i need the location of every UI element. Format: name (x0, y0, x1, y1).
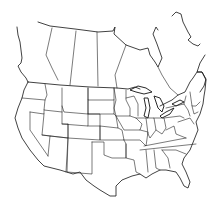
lake-erie (160, 108, 174, 118)
outline-map (0, 0, 221, 203)
alberta-sask-border (70, 31, 76, 85)
quebec-east-coast (197, 55, 206, 92)
lake-michigan (144, 98, 150, 118)
bc-alberta-border (46, 28, 58, 80)
labrador-coast (172, 12, 200, 46)
us-canada-border (28, 82, 140, 89)
bc-coast (17, 27, 28, 82)
lake-huron (154, 96, 164, 112)
canada-north-coast (38, 22, 162, 67)
sask-manitoba-border (97, 32, 98, 86)
manitoba-ontario-border (115, 45, 126, 88)
ontario-quebec-border (158, 67, 178, 95)
map-canvas (0, 0, 221, 203)
state-borders (22, 84, 200, 174)
us-outline (15, 72, 206, 196)
